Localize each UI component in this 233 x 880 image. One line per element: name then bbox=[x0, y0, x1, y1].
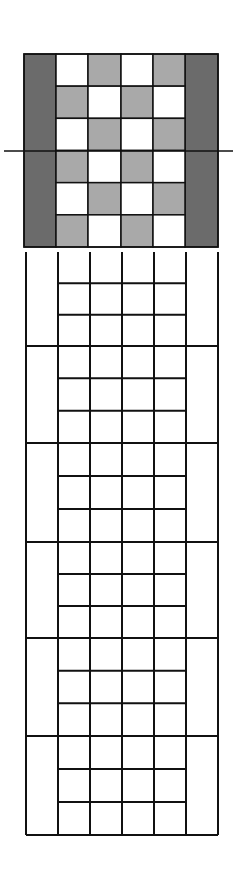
grid-cell-light bbox=[121, 151, 153, 183]
grid-cell-white bbox=[88, 215, 121, 247]
grid-cell-white bbox=[56, 183, 88, 215]
grid-cell-white bbox=[88, 151, 121, 183]
grid-cell-light bbox=[88, 183, 121, 215]
grid-cell-white bbox=[88, 86, 121, 118]
grid-cell-white bbox=[153, 151, 185, 183]
grid-cell-light bbox=[121, 215, 153, 247]
grid-cell-white bbox=[121, 54, 153, 86]
grid-cell-light bbox=[153, 183, 185, 215]
empty-grid bbox=[26, 252, 218, 835]
grid-cell-light bbox=[56, 151, 88, 183]
grid-cell-light bbox=[88, 54, 121, 86]
diagram-canvas bbox=[0, 0, 233, 880]
grid-cell-white bbox=[153, 86, 185, 118]
grid-cell-light bbox=[56, 86, 88, 118]
grid-cell-white bbox=[121, 183, 153, 215]
grid-cell-light bbox=[153, 118, 185, 150]
grid-cell-white bbox=[153, 215, 185, 247]
grid-cell-light bbox=[88, 118, 121, 150]
grid-cell-white bbox=[121, 118, 153, 150]
grid-cell-light bbox=[153, 54, 185, 86]
grid-cell-white bbox=[56, 54, 88, 86]
grid-cell-light bbox=[121, 86, 153, 118]
weave-diagram bbox=[0, 0, 233, 880]
grid-cell-white bbox=[56, 118, 88, 150]
grid-cell-light bbox=[56, 215, 88, 247]
